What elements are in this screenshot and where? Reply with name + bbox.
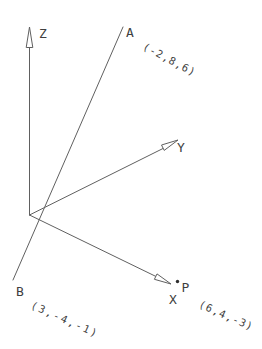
axes-diagram: Z Y X A (-2,8,6) B (3,-4,-1) P (6,4,-3) (0, 0, 262, 349)
y-axis-line (30, 148, 165, 215)
y-axis-arrowhead-icon (162, 140, 179, 150)
z-axis-arrowhead-icon (26, 27, 33, 48)
x-axis-label: X (169, 292, 177, 307)
point-p-label: P (182, 280, 190, 295)
point-b-label: B (16, 284, 24, 299)
point-a-coordinates: (-2,8,6) (141, 40, 198, 78)
diagram-svg: Z Y X A (-2,8,6) B (3,-4,-1) P (6,4,-3) (0, 0, 262, 349)
y-axis-label: Y (177, 140, 185, 155)
z-axis-label: Z (39, 26, 47, 41)
point-p-coordinates: (6,4,-3) (197, 298, 255, 333)
point-p-dot (176, 280, 179, 283)
x-axis-arrowhead-icon (154, 274, 171, 284)
x-axis-line (30, 215, 157, 277)
point-b-coordinates: (3,-4,-1) (29, 299, 101, 340)
point-a-label: A (126, 25, 134, 40)
